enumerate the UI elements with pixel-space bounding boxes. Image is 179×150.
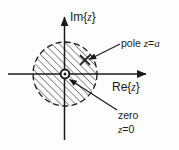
zero-callout-value: =0 (122, 123, 134, 135)
zero-callout-label: zero (118, 110, 138, 121)
imaginary-axis-label-prefix: Im{ (70, 10, 87, 24)
zero-callout-equation: z=0 (118, 124, 134, 136)
pole-callout-label: pole z=a (121, 38, 160, 50)
imaginary-axis-label-suffix: } (92, 10, 96, 24)
pole-zero-diagram: Im{z} Re{z} pole z=a zero z=0 (0, 0, 179, 150)
real-axis-label-suffix: } (136, 80, 140, 94)
pole-callout-leader (89, 44, 120, 60)
pole-callout-value: a (154, 37, 160, 49)
real-axis-label: Re{z} (112, 81, 140, 94)
imaginary-axis-label: Im{z} (70, 11, 96, 24)
real-axis-label-prefix: Re{ (112, 80, 131, 94)
zero-marker (61, 70, 70, 79)
pole-callout-text: pole (121, 37, 144, 49)
